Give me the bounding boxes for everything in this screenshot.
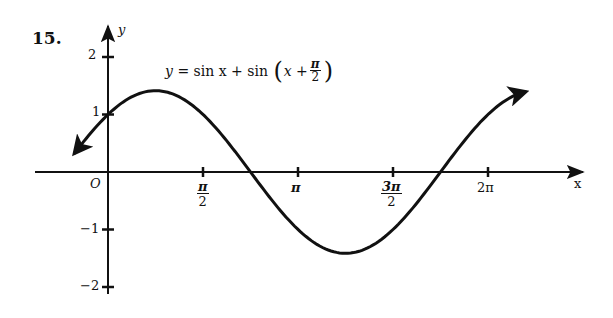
x-tick-label-2pi: 2π — [477, 180, 494, 195]
y-tick-label-2: 2 — [88, 47, 96, 62]
y-axis-label: y — [118, 22, 125, 37]
x-tick-label-3pi-over-2: 3π 2 — [381, 180, 402, 208]
pi-over-2-fraction: π 2 — [310, 58, 321, 83]
graph-figure: 15. y x O 2 1 −1 −2 π 2 π 3π 2 2π y = si… — [0, 0, 613, 318]
right-paren: ) — [324, 61, 333, 81]
y-tick-label-neg1: −1 — [80, 221, 99, 236]
y-tick-label-1: 1 — [92, 104, 100, 119]
left-paren: ( — [273, 61, 282, 81]
y-tick-label-neg2: −2 — [80, 278, 99, 293]
function-equation-label: y = sin x + sin ( x + π 2 ) — [165, 58, 334, 83]
x-tick-label-pi-over-2: π 2 — [197, 180, 209, 208]
origin-label: O — [90, 176, 101, 191]
x-axis-label: x — [574, 176, 581, 191]
x-tick-label-pi: π — [291, 180, 301, 195]
